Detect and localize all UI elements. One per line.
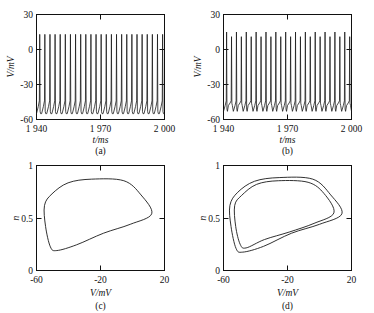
panel-b-caption: (b) (282, 146, 293, 156)
panel-b-plot: 30 0 -30 -60 1 940 1 970 2 000 V/mV t/ms… (187, 0, 374, 156)
panel-b-ytick-3: 30 (211, 10, 221, 20)
panel-d-caption: (d) (282, 301, 293, 312)
panel-d-limit-cycle-outer (229, 177, 342, 252)
panel-b-axes (224, 15, 352, 120)
panel-b-xtick-2: 2 000 (341, 124, 363, 134)
panel-a-ytick-1: -30 (20, 80, 33, 90)
panel-d-axes (224, 166, 352, 271)
panel-d-plot: 1 0.5 0 -60 -20 20 n V/mV (d) (187, 157, 374, 313)
panel-d-xtick-2: 20 (347, 275, 357, 285)
panel-d-ytick-2: 1 (215, 161, 220, 171)
panel-d-ylabel: n (198, 215, 208, 220)
panel-c-ylabel: n (11, 215, 21, 220)
panel-c-xtick-2: 20 (160, 275, 170, 285)
panel-b-ylabel: V/mV (193, 55, 203, 77)
panel-c-ytick-2: 1 (28, 161, 33, 171)
panel-a-xtick-2: 2 000 (154, 124, 176, 134)
panel-c: 1 0.5 0 -60 -20 20 n V/mV (c) (0, 157, 187, 313)
panel-a: 30 0 -30 -60 1 940 1 970 2 000 V/mV t/ms… (0, 0, 187, 156)
panel-d-xlabel: V/mV (277, 288, 299, 298)
panel-c-xlabel: V/mV (90, 288, 112, 298)
panel-d-xtick-0: -60 (217, 275, 230, 285)
panel-d-ytick-1: 0.5 (208, 214, 220, 224)
panel-a-plot: 30 0 -30 -60 1 940 1 970 2 000 V/mV t/ms… (0, 0, 187, 156)
panel-a-ytick-2: 0 (28, 45, 33, 55)
panel-c-xtick-1: -20 (94, 275, 107, 285)
panel-c-caption: (c) (95, 301, 106, 312)
panel-c-limit-cycle (44, 179, 152, 251)
panel-c-xtick-0: -60 (30, 275, 43, 285)
panel-b: 30 0 -30 -60 1 940 1 970 2 000 V/mV t/ms… (187, 0, 374, 156)
panel-b-ytick-1: -30 (207, 80, 220, 90)
panel-a-xlabel: t/ms (93, 135, 109, 145)
panel-b-ytick-2: 0 (215, 45, 220, 55)
panel-a-xtick-0: 1 940 (26, 124, 48, 134)
panel-a-xtick-1: 1 970 (90, 124, 112, 134)
panel-a-voltage-trace (37, 34, 165, 113)
panel-b-xlabel: t/ms (280, 135, 296, 145)
panel-a-caption: (a) (95, 146, 106, 156)
panel-d-xtick-1: -20 (281, 275, 294, 285)
panel-c-ytick-1: 0.5 (21, 214, 33, 224)
panel-b-xtick-0: 1 940 (213, 124, 235, 134)
panel-b-xtick-1: 1 970 (277, 124, 299, 134)
panel-a-ylabel: V/mV (6, 55, 16, 77)
panel-b-voltage-trace (224, 32, 352, 111)
panel-c-axes (37, 166, 165, 271)
panel-a-ytick-3: 30 (24, 10, 34, 20)
figure-container: 30 0 -30 -60 1 940 1 970 2 000 V/mV t/ms… (0, 0, 374, 313)
panel-c-plot: 1 0.5 0 -60 -20 20 n V/mV (c) (0, 157, 187, 313)
panel-d-limit-cycle-inner (234, 181, 334, 249)
panel-d: 1 0.5 0 -60 -20 20 n V/mV (d) (187, 157, 374, 313)
